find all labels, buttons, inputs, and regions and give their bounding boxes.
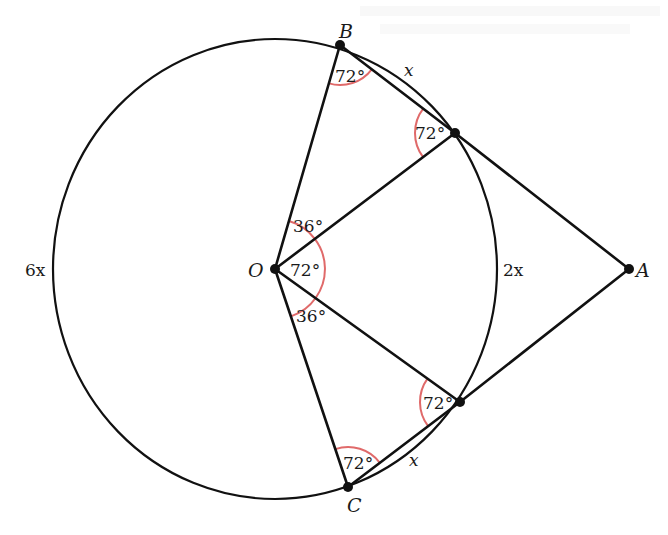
- arc-label-minor: 2x: [503, 260, 524, 280]
- tangent-lower: [460, 269, 629, 402]
- point-c: [343, 482, 353, 492]
- angle-label-upper-tangent: 72°: [415, 123, 445, 143]
- segment-o-upper-tangent: [275, 133, 455, 269]
- geometry-diagram: B O A C 6x 2x x x 72° 72° 36° 72° 36° 72…: [0, 0, 668, 535]
- bleed-through-text: [360, 6, 660, 34]
- segments: [275, 45, 629, 487]
- angle-label-lower-tangent: 72°: [423, 393, 453, 413]
- label-o: O: [248, 259, 264, 281]
- chord-c-lower-tangent: [348, 402, 460, 487]
- point-lower-tangent: [455, 397, 465, 407]
- chord-b-upper-tangent: [340, 45, 455, 133]
- arc-label-upper-x: x: [404, 60, 414, 80]
- label-a: A: [634, 259, 650, 281]
- point-o: [270, 264, 280, 274]
- arc-label-major: 6x: [25, 260, 46, 280]
- point-upper-tangent: [450, 128, 460, 138]
- angle-label-o-middle: 72°: [290, 260, 320, 280]
- label-c: C: [347, 494, 362, 516]
- point-a: [624, 264, 634, 274]
- angle-label-b: 72°: [335, 66, 365, 86]
- label-b: B: [338, 20, 353, 42]
- angle-label-c: 72°: [343, 453, 373, 473]
- tangent-upper: [455, 133, 629, 269]
- segment-o-lower-tangent: [275, 269, 460, 402]
- angle-label-o-upper: 36°: [293, 216, 323, 236]
- angle-label-o-lower: 36°: [296, 306, 326, 326]
- arc-label-lower-x: x: [409, 450, 419, 470]
